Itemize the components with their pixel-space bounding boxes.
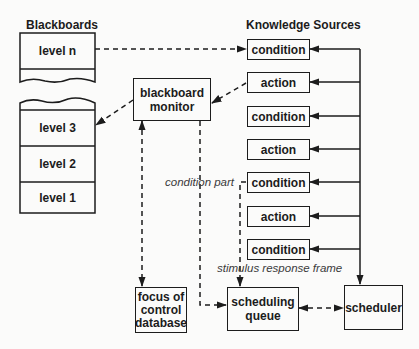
ks-action-3: action (247, 206, 310, 227)
blackboard-monitor-box: blackboard monitor (133, 78, 211, 121)
ks-condition-2: condition (247, 106, 310, 127)
ks-action-1: action (247, 72, 310, 93)
scheduler-box: scheduler (344, 285, 403, 330)
blackboard-level-n: level n (20, 33, 95, 69)
blackboard-level-1: level 1 (20, 182, 95, 213)
knowledge-sources-heading: Knowledge Sources (246, 18, 361, 32)
blackboard-level-3: level 3 (20, 110, 95, 146)
ks-action-2: action (247, 139, 310, 160)
condition-part-annotation: condition part (165, 176, 234, 188)
ks-condition-4: condition (247, 239, 310, 260)
ks-condition-1: condition (247, 39, 310, 60)
scheduling-queue-box: scheduling queue (227, 287, 299, 331)
blackboard-level-2: level 2 (20, 146, 95, 182)
ks-condition-3: condition (247, 172, 310, 193)
blackboards-heading: Blackboards (26, 18, 98, 32)
focus-of-control-database-box: focus of control database (135, 287, 187, 333)
stimulus-response-frame-annotation: stimulus response frame (217, 262, 342, 274)
